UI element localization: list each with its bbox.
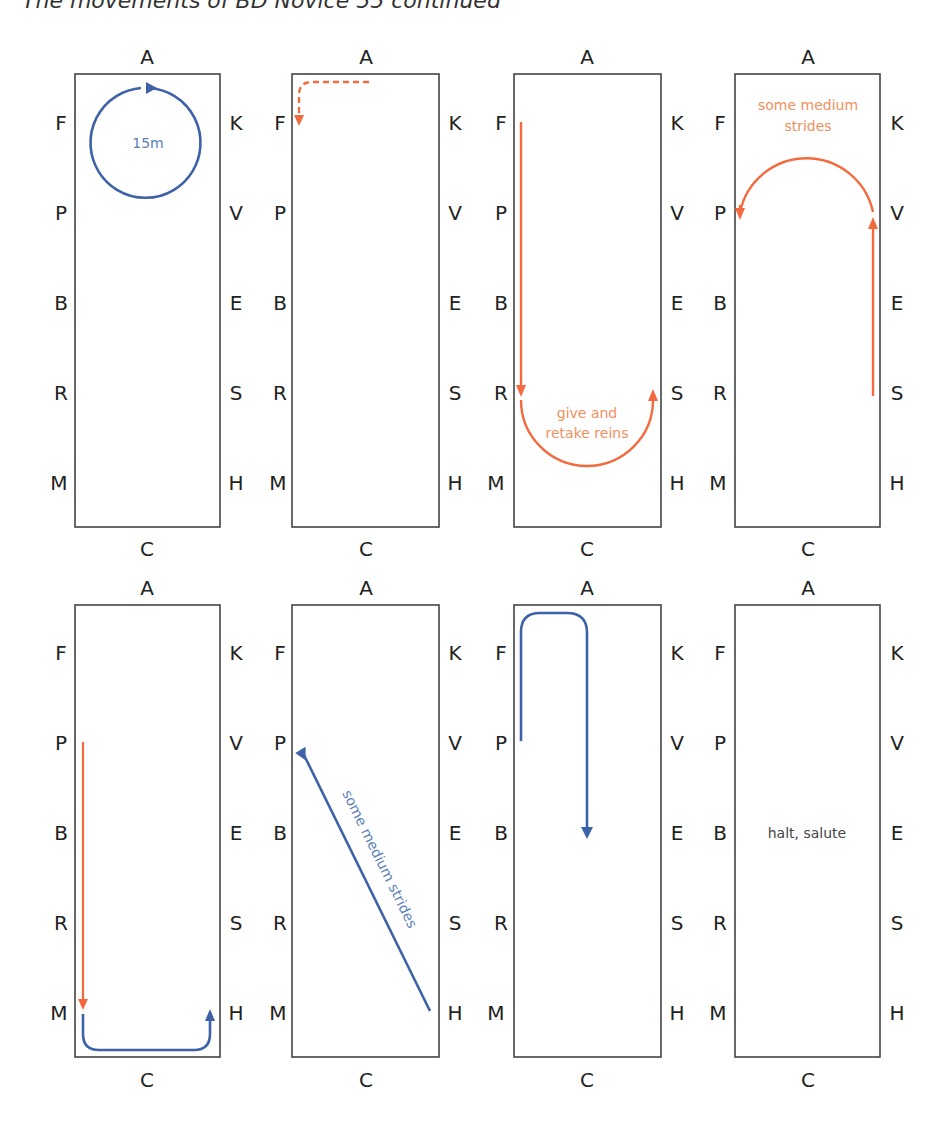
letter-k: K: [229, 111, 243, 135]
letter-a: A: [359, 45, 373, 69]
letter-s: S: [449, 381, 462, 405]
letter-v: V: [448, 201, 462, 225]
letter-f: F: [495, 641, 507, 665]
letter-r: R: [494, 911, 508, 935]
halt-label: halt, salute: [768, 825, 846, 841]
letter-h: H: [669, 1001, 684, 1025]
letter-s: S: [230, 911, 243, 935]
letter-e: E: [230, 821, 243, 845]
arena-8: A C F P B R M K V E S H halt, salute: [709, 576, 904, 1092]
letter-e: E: [449, 821, 462, 845]
letter-h: H: [669, 471, 684, 495]
letter-m: M: [487, 471, 504, 495]
letter-k: K: [229, 641, 243, 665]
letter-m: M: [487, 1001, 504, 1025]
letter-k: K: [448, 111, 462, 135]
letter-p: P: [274, 731, 286, 755]
letter-b: B: [54, 291, 68, 315]
letter-r: R: [494, 381, 508, 405]
letter-a: A: [359, 576, 373, 600]
letter-k: K: [670, 111, 684, 135]
letter-b: B: [494, 821, 508, 845]
letter-f: F: [274, 641, 286, 665]
letter-b: B: [273, 821, 287, 845]
arena-border: [514, 74, 661, 527]
letter-m: M: [709, 1001, 726, 1025]
circle-label: 15m: [132, 135, 163, 151]
letter-a: A: [580, 576, 594, 600]
letter-r: R: [713, 911, 727, 935]
letter-k: K: [448, 641, 462, 665]
arena-border: [75, 605, 220, 1057]
letter-c: C: [140, 537, 154, 561]
arena-2: A C F P B R M K V E S H: [269, 45, 462, 561]
letter-c: C: [359, 1068, 373, 1092]
letter-r: R: [273, 381, 287, 405]
letter-f: F: [55, 111, 67, 135]
letter-f: F: [495, 111, 507, 135]
letter-h: H: [447, 1001, 462, 1025]
letter-c: C: [359, 537, 373, 561]
letter-f: F: [274, 111, 286, 135]
letter-p: P: [274, 201, 286, 225]
letter-v: V: [229, 731, 243, 755]
letter-p: P: [55, 731, 67, 755]
arena-3: A C F P B R M K V E S H give and retake …: [487, 45, 684, 561]
letter-a: A: [801, 45, 815, 69]
reins-label-line2: retake reins: [546, 425, 629, 441]
letter-m: M: [709, 471, 726, 495]
letter-h: H: [228, 471, 243, 495]
letter-c: C: [801, 537, 815, 561]
letter-v: V: [670, 201, 684, 225]
dressage-diagrams: A C F P B R M K V E S H 15m A C F P B R …: [0, 0, 942, 1124]
arena-4: A C F P B R M K V E S H some medium stri…: [709, 45, 904, 561]
letter-h: H: [889, 1001, 904, 1025]
arena-5: A C F P B R M K V E S H: [50, 576, 243, 1092]
arena-border: [735, 74, 880, 527]
letter-a: A: [140, 45, 154, 69]
letter-r: R: [713, 381, 727, 405]
letter-a: A: [801, 576, 815, 600]
letter-c: C: [140, 1068, 154, 1092]
letter-s: S: [891, 911, 904, 935]
arena-7: A C F P B R M K V E S H: [487, 576, 684, 1092]
letter-m: M: [50, 471, 67, 495]
letter-r: R: [54, 911, 68, 935]
letter-m: M: [269, 1001, 286, 1025]
arena-border: [292, 74, 439, 527]
arena-6: A C F P B R M K V E S H some medium stri…: [269, 576, 462, 1092]
letter-v: V: [890, 201, 904, 225]
letter-c: C: [580, 537, 594, 561]
letter-p: P: [495, 731, 507, 755]
letter-h: H: [447, 471, 462, 495]
letter-s: S: [671, 381, 684, 405]
letter-v: V: [670, 731, 684, 755]
letter-b: B: [713, 821, 727, 845]
letter-h: H: [889, 471, 904, 495]
letter-s: S: [449, 911, 462, 935]
letter-k: K: [890, 111, 904, 135]
letter-p: P: [495, 201, 507, 225]
letter-a: A: [140, 576, 154, 600]
letter-k: K: [890, 641, 904, 665]
letter-f: F: [714, 641, 726, 665]
reins-label-line1: give and: [557, 405, 617, 421]
letter-b: B: [273, 291, 287, 315]
letter-e: E: [671, 291, 684, 315]
letter-f: F: [714, 111, 726, 135]
arena-1: A C F P B R M K V E S H 15m: [50, 45, 243, 561]
letter-v: V: [229, 201, 243, 225]
letter-a: A: [580, 45, 594, 69]
letter-c: C: [801, 1068, 815, 1092]
letter-e: E: [891, 291, 904, 315]
letter-h: H: [228, 1001, 243, 1025]
letter-k: K: [670, 641, 684, 665]
letter-e: E: [891, 821, 904, 845]
strides-label-line1: some medium: [758, 97, 858, 113]
letter-v: V: [448, 731, 462, 755]
letter-p: P: [714, 201, 726, 225]
letter-p: P: [714, 731, 726, 755]
letter-r: R: [273, 911, 287, 935]
letter-m: M: [50, 1001, 67, 1025]
letter-s: S: [230, 381, 243, 405]
